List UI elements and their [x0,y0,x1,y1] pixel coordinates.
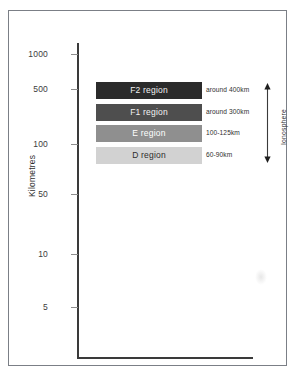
y-axis-tick-label-10: 10 [38,250,48,259]
y-axis-tick [71,194,78,195]
region-bar-f2: F2 region [96,82,202,99]
figure-frame: 1000 500 100 50 10 5 Kilometres F2 regio… [8,10,287,366]
region-bar-e: E region [96,125,202,142]
y-axis-tick-label-1000: 1000 [28,50,48,59]
y-axis-tick [71,254,78,255]
ionosphere-bracket-label: Ionosphere [280,109,287,145]
region-bar-label-f2: F2 region [130,86,168,95]
ionosphere-layers-figure: 1000 500 100 50 10 5 Kilometres F2 regio… [0,0,296,376]
ionosphere-extent-arrow-icon [263,83,272,163]
y-axis-tick-label-100: 100 [33,140,48,149]
altitude-note-e: 100-125km [206,130,240,137]
y-axis-tick-label-50: 50 [38,190,48,199]
y-axis-line [77,43,79,359]
altitude-note-f1: around 300km [206,109,249,116]
altitude-note-f2: around 400km [206,87,249,94]
y-axis-tick-label-500: 500 [33,85,48,94]
region-bar-label-e: E region [132,129,165,138]
y-axis-tick [71,144,78,145]
y-axis-tick-label-5: 5 [43,303,48,312]
altitude-note-d: 60-90km [206,152,232,159]
y-axis-tick [71,54,78,55]
x-axis-line [77,357,253,359]
region-bar-label-f1: F1 region [130,108,168,117]
region-bar-f1: F1 region [96,104,202,121]
y-axis-tick [71,89,78,90]
y-axis-tick [71,307,78,308]
region-bar-d: D region [96,147,202,164]
scan-artifact [255,269,267,285]
y-axis-title: Kilometres [27,155,37,197]
region-bar-label-d: D region [132,151,166,160]
